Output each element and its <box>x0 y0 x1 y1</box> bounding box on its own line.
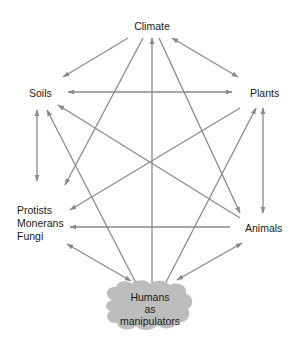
climate-node: Climate <box>134 20 170 32</box>
arrow-climate-animals <box>159 38 240 213</box>
plants-node: Plants <box>250 87 279 99</box>
protists-label-line-3: Fungi <box>17 230 43 242</box>
arrow-climate-plants <box>172 38 238 77</box>
ecosystem-interaction-diagram: Humans as manipulators Climate Soils Pla… <box>0 0 299 354</box>
arrow-climate-protists <box>65 38 143 185</box>
arrow-protists-humans <box>67 244 131 281</box>
humans-label-line-3: manipulators <box>120 315 180 327</box>
humans-label-line-2: as <box>144 303 155 315</box>
arrows-group <box>37 38 263 290</box>
animals-node: Animals <box>245 222 282 234</box>
arrow-soils-humans <box>47 110 138 287</box>
arrow-humans-plants <box>162 108 256 290</box>
protists-label-line-1: Protists <box>17 204 52 216</box>
soils-node: Soils <box>29 87 52 99</box>
arrow-climate-soils <box>63 38 128 77</box>
protists-label-line-2: Monerans <box>17 217 64 229</box>
humans-node: Humans as manipulators <box>106 280 192 330</box>
humans-label-line-1: Humans <box>130 291 169 303</box>
arrow-animals-humans <box>177 243 242 280</box>
protists-node: Protists Monerans Fungi <box>17 204 64 242</box>
